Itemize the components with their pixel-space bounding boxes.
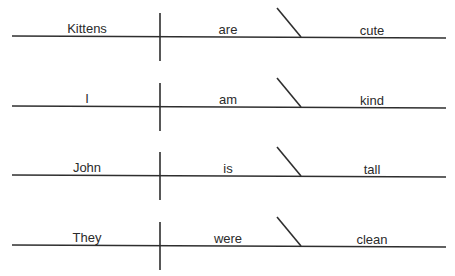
- sentence-diagram-canvas: Kittens are cute I am kind John is tall: [0, 0, 455, 276]
- subject-word: I: [85, 91, 89, 106]
- predicate-adjective-diagonal: [277, 78, 301, 107]
- subject-word: Kittens: [67, 21, 107, 36]
- diagram-row: They were clean: [12, 217, 446, 270]
- subject-word: They: [73, 230, 102, 245]
- predicate-adjective-diagonal: [277, 147, 301, 176]
- complement-word: tall: [364, 162, 381, 177]
- verb-word: am: [219, 92, 237, 107]
- diagram-row: Kittens are cute: [12, 8, 446, 61]
- subject-word: John: [73, 160, 101, 175]
- diagram-row: I am kind: [12, 78, 446, 131]
- diagram-row: John is tall: [12, 147, 446, 200]
- verb-word: is: [223, 161, 233, 176]
- complement-word: kind: [360, 93, 384, 108]
- sentence-diagram-svg: Kittens are cute I am kind John is tall: [0, 0, 455, 276]
- predicate-adjective-diagonal: [277, 217, 301, 246]
- predicate-adjective-diagonal: [277, 8, 301, 37]
- verb-word: were: [213, 231, 242, 246]
- verb-word: are: [219, 22, 238, 37]
- complement-word: clean: [356, 232, 387, 247]
- complement-word: cute: [360, 23, 385, 38]
